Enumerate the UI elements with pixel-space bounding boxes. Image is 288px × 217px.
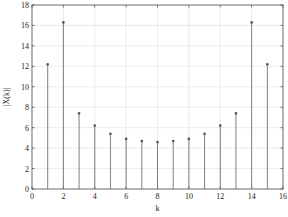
- stem-chart: 0246810121416024681012141618 k |X(k)|: [0, 0, 288, 217]
- x-tick-label: 12: [216, 192, 224, 201]
- y-tick-label: 14: [21, 42, 29, 51]
- x-tick-label: 0: [30, 192, 34, 201]
- y-tick-label: 2: [25, 165, 29, 174]
- y-tick-label: 12: [21, 62, 29, 71]
- stem-marker: [219, 124, 222, 127]
- y-tick-label: 6: [25, 124, 29, 133]
- stem-marker: [250, 21, 253, 24]
- y-tick-label: 4: [25, 144, 29, 153]
- stem-marker: [62, 21, 65, 24]
- x-tick-label: 6: [124, 192, 128, 201]
- x-tick-label: 8: [156, 192, 160, 201]
- stem-marker: [109, 133, 112, 136]
- stem-marker: [188, 138, 191, 141]
- x-tick-label: 16: [279, 192, 287, 201]
- stem-marker: [172, 140, 175, 143]
- y-tick-label: 10: [21, 83, 29, 92]
- x-tick-label: 10: [185, 192, 193, 201]
- y-tick-label: 8: [25, 103, 29, 112]
- stem-marker: [156, 141, 159, 144]
- x-tick-label: 4: [93, 192, 97, 201]
- stem-marker: [78, 112, 81, 115]
- stem-marker: [125, 138, 128, 141]
- x-tick-label: 2: [61, 192, 65, 201]
- stem-marker: [46, 63, 49, 66]
- stem-marker: [266, 63, 269, 66]
- axis-ticks: 0246810121416024681012141618: [21, 1, 287, 201]
- stem-marker: [203, 133, 206, 136]
- x-tick-label: 14: [248, 192, 256, 201]
- stem-marker: [235, 112, 238, 115]
- stem-marker: [93, 124, 96, 127]
- y-tick-label: 16: [21, 21, 29, 30]
- y-axis-label: |X(k)|: [2, 88, 11, 106]
- y-tick-label: 18: [21, 1, 29, 10]
- y-tick-label: 0: [25, 185, 29, 194]
- x-axis-label: k: [156, 204, 160, 213]
- stem-marker: [141, 140, 144, 143]
